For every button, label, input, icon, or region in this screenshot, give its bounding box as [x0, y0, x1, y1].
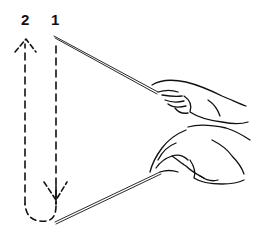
conducting-diagram: 2 1 — [0, 0, 261, 235]
upper-hand-icon — [152, 80, 248, 123]
beat-label-1: 1 — [51, 12, 59, 27]
upper-baton — [54, 36, 158, 94]
diagram-svg — [0, 0, 261, 235]
bottom-turn-path — [25, 204, 56, 221]
lower-baton — [55, 172, 161, 224]
lower-hand-icon — [150, 125, 250, 184]
beat-label-2: 2 — [21, 12, 29, 27]
